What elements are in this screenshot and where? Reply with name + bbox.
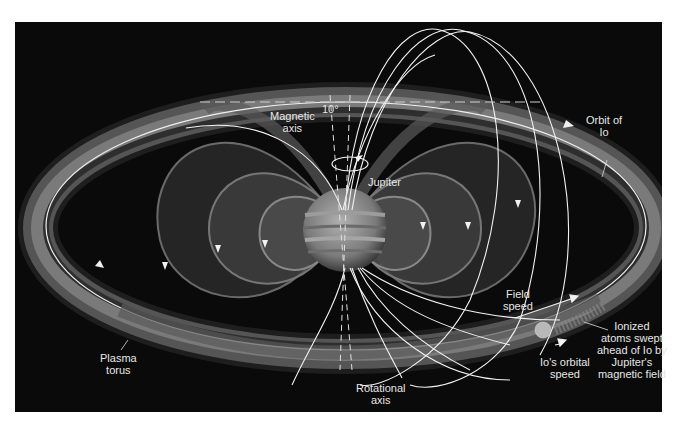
field-speed-label: Field speed bbox=[503, 288, 533, 312]
plasma-torus-label: Plasma torus bbox=[100, 352, 137, 376]
magnetic-axis-label: Magnetic axis bbox=[270, 110, 315, 134]
orbital-speed-arrow-icon bbox=[558, 339, 566, 346]
arrow-down-icon bbox=[162, 262, 168, 270]
jupiter-label: Jupiter bbox=[368, 176, 401, 188]
rotational-axis-label: Rotational axis bbox=[356, 382, 406, 406]
orbit-arrow-icon bbox=[95, 260, 104, 268]
tilt-angle-label: 10° bbox=[322, 103, 339, 115]
ionized-atoms-label: Ionized atoms swept ahead of Io by Jupit… bbox=[597, 320, 667, 380]
orbit-of-io-label: Orbit of Io bbox=[586, 114, 622, 138]
io-orbital-speed-label: Io's orbital speed bbox=[540, 356, 590, 380]
